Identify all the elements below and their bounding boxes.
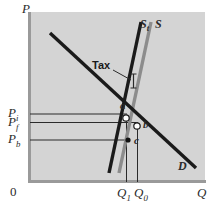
point-label-c: c: [134, 135, 139, 146]
price-label-pb-text: P: [8, 131, 16, 146]
quantity-label-q0-text: Q: [134, 185, 143, 200]
quantity-label-q1: Q1: [117, 186, 131, 202]
price-label-pb-sub: b: [16, 139, 20, 149]
tax-annotation-label: Tax: [92, 60, 110, 71]
quantity-label-q1-sub: 1: [126, 193, 130, 203]
price-label-pf-text: P: [8, 114, 16, 129]
supply-curve-label: S: [155, 18, 162, 30]
point-marker-b: [134, 123, 140, 129]
supply-tax-curve-label: St: [140, 18, 149, 34]
diagram-canvas: [0, 0, 213, 208]
origin-label: 0: [10, 185, 17, 198]
supply-tax-curve-label-sub: t: [147, 24, 149, 33]
price-label-pf-sub: f: [16, 122, 18, 132]
y-axis-label: P: [22, 2, 30, 15]
x-axis-label: Q: [197, 186, 206, 199]
point-label-b: b: [143, 119, 149, 130]
supply-tax-curve-label-text: S: [140, 17, 147, 31]
price-label-pb: Pb: [8, 132, 20, 148]
point-marker-c: [125, 137, 130, 142]
quantity-label-q0-sub: 0: [143, 193, 147, 203]
quantity-label-q0: Q0: [134, 186, 148, 202]
quantity-label-q1-text: Q: [117, 185, 126, 200]
price-label-pf: Pf: [8, 115, 18, 131]
demand-curve-label: D: [178, 160, 187, 172]
point-label-a: a: [120, 100, 126, 111]
point-marker-a: [123, 115, 129, 121]
tax-incidence-diagram: P Q 0 Pi Pf Pb Q1 Q0 St S D a b c Tax: [0, 0, 213, 208]
